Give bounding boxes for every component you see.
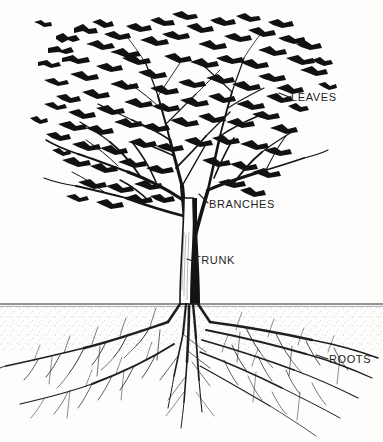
tree-illustration (0, 0, 383, 442)
label-branches: BRANCHES (209, 199, 275, 210)
label-leaves: LEAVES (291, 92, 337, 103)
trunk (180, 198, 200, 304)
label-trunk: TRUNK (194, 255, 235, 266)
label-roots: ROOTS (329, 354, 371, 365)
tree-anatomy-diagram: LEAVES BRANCHES TRUNK ROOTS (0, 0, 383, 442)
